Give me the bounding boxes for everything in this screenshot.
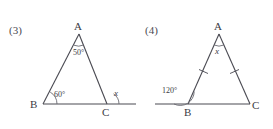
figure-4: (4) A B C x 120° [136,0,273,129]
figure-3: (3) A B C 50° 60° x [0,0,137,129]
worksheet-canvas: (3) A B C 50° 60° x (4) [0,0,273,129]
figure-4-vertex-label-a: A [214,20,222,32]
figure-3-angle-label-a: 50° [73,48,84,57]
figure-3-angle-label-c: x [114,88,118,98]
figure-3-drawing [0,0,137,129]
figure-3-vertex-label-a: A [74,20,82,32]
figure-3-vertex-label-b: B [30,98,37,110]
figure-4-side-ab [188,34,219,104]
figure-3-vertex-label-c: C [102,106,109,118]
figure-4-side-ac [219,34,250,104]
figure-3-angle-label-b: 60° [54,90,65,99]
figure-4-angle-label-a: x [215,46,219,56]
figure-3-angle-arc-a [74,45,84,46]
figure-4-vertex-label-c: C [252,99,259,111]
figure-4-angle-label-b: 120° [162,86,177,95]
figure-4-vertex-label-b: B [184,106,191,118]
figure-3-side-ac [79,34,107,104]
